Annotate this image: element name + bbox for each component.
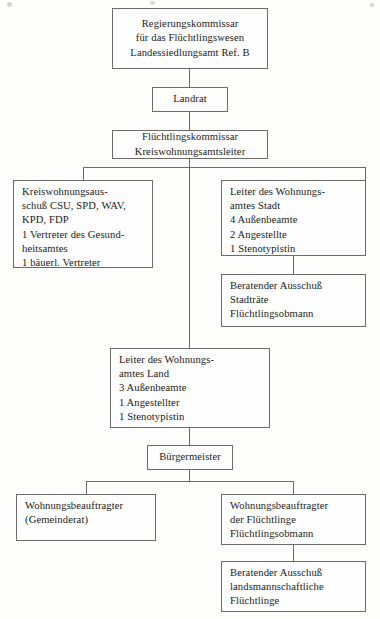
node-line: 4 Außenbeamte bbox=[230, 213, 358, 227]
node-beratender-ausschuss-landsmannschaftlich[interactable]: Beratender Ausschuß landsmannschaftliche… bbox=[221, 561, 366, 612]
connector-bus-leiter-stadt bbox=[365, 167, 366, 180]
node-line: Beratender Ausschuß bbox=[230, 566, 358, 580]
node-line: heitsamtes bbox=[22, 242, 145, 256]
connector-spine-center bbox=[189, 167, 190, 348]
connector-bus-wohnungsbeauftragter-fluechtlinge bbox=[293, 481, 294, 494]
node-line: Beratender Ausschuß bbox=[230, 279, 358, 293]
scan-speckle bbox=[150, 1, 155, 5]
node-line: 1 Stenotypistin bbox=[230, 242, 358, 256]
node-leiter-wohnungsamt-stadt[interactable]: Leiter des Wohnungs- amtes Stadt 4 Außen… bbox=[221, 180, 366, 256]
scan-speckle bbox=[370, 3, 374, 7]
connector-bus-wohnungsbeauftragter-gemeinderat bbox=[86, 481, 87, 494]
node-fluechtlingskommissar[interactable]: Flüchtlingskommissar Kreiswohnungsamtsle… bbox=[112, 130, 268, 159]
connector-bus-kreiswohnungsausschuss bbox=[83, 167, 84, 180]
node-line: Flüchtlingsobmann bbox=[230, 307, 358, 321]
node-line: Bürgermeister bbox=[159, 450, 221, 464]
node-buergermeister[interactable]: Bürgermeister bbox=[147, 445, 233, 470]
node-line: Flüchtlingskommissar bbox=[142, 130, 238, 144]
connector-wohnungsbeauftragter-beratender-ausschuss bbox=[293, 545, 294, 561]
node-line: 3 Außenbeamte bbox=[119, 381, 262, 395]
node-line: Kreiswohnungsamtsleiter bbox=[135, 145, 246, 159]
node-line: schuß CSU, SPD, WAV, bbox=[22, 199, 145, 213]
node-line: KPD, FDP bbox=[22, 213, 145, 227]
node-line: 1 Angestellter bbox=[119, 396, 262, 410]
node-line: 1 bäuerl. Vertreter bbox=[22, 256, 145, 270]
node-line: der Flüchtlinge bbox=[230, 513, 358, 527]
node-line: 2 Angestellte bbox=[230, 228, 358, 242]
node-line: 1 Stenotypistin bbox=[119, 410, 262, 424]
bus-tier-bottom bbox=[86, 481, 293, 482]
node-line: Leiter des Wohnungs- bbox=[230, 185, 358, 199]
node-line: Flüchtlinge bbox=[230, 594, 358, 608]
node-line: amtes Land bbox=[119, 367, 262, 381]
node-line: landsmannschaftliche bbox=[230, 580, 358, 594]
node-line: für das Flüchtlingswesen bbox=[136, 31, 244, 45]
node-line: (Gemeinderat) bbox=[25, 513, 148, 527]
node-line: Wohnungsbeauftragter bbox=[25, 499, 148, 513]
connector-regierungskommissar-landrat bbox=[189, 69, 190, 87]
org-chart: Regierungskommissar für das Flüchtlingsw… bbox=[0, 0, 380, 619]
node-line: Regierungskommissar bbox=[142, 17, 239, 31]
node-landrat[interactable]: Landrat bbox=[152, 87, 228, 112]
node-leiter-wohnungsamt-land[interactable]: Leiter des Wohnungs- amtes Land 3 Außenb… bbox=[110, 348, 270, 428]
node-regierungskommissar[interactable]: Regierungskommissar für das Flüchtlingsw… bbox=[112, 8, 268, 69]
node-line: Leiter des Wohnungs- bbox=[119, 353, 262, 367]
node-wohnungsbeauftragter-fluechtlinge[interactable]: Wohnungsbeauftragter der Flüchtlinge Flü… bbox=[221, 494, 366, 545]
node-line: 1 Vertreter des Gesund- bbox=[22, 228, 145, 242]
connector-leiter-land-buergermeister bbox=[189, 428, 190, 445]
node-wohnungsbeauftragter-gemeinderat[interactable]: Wohnungsbeauftragter (Gemeinderat) bbox=[16, 494, 156, 541]
connector-landrat-fluechtlingskommissar bbox=[189, 112, 190, 130]
node-line: Stadträte bbox=[230, 293, 358, 307]
node-line: Landessiedlungsamt Ref. B bbox=[130, 46, 249, 60]
scan-speckle bbox=[7, 2, 12, 7]
node-line: Landrat bbox=[173, 92, 207, 106]
node-line: Kreiswohnungsaus- bbox=[22, 185, 145, 199]
node-line: Flüchtlingsobmann bbox=[230, 527, 358, 541]
node-line: Wohnungsbeauftragter bbox=[230, 499, 358, 513]
node-kreiswohnungsausschuss[interactable]: Kreiswohnungsaus- schuß CSU, SPD, WAV, K… bbox=[13, 180, 153, 268]
node-beratender-ausschuss-stadt[interactable]: Beratender Ausschuß Stadträte Flüchtling… bbox=[221, 274, 366, 327]
bus-tier3 bbox=[83, 167, 366, 168]
node-line: amtes Stadt bbox=[230, 199, 358, 213]
